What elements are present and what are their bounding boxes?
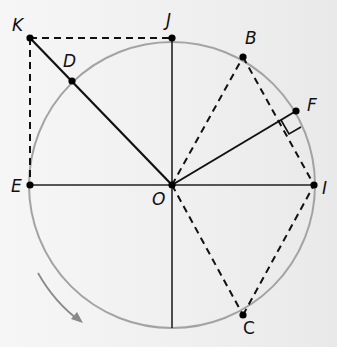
label-K: K	[12, 15, 25, 35]
point-B	[239, 53, 246, 60]
point-D	[68, 77, 75, 84]
point-J	[168, 34, 175, 41]
label-B: B	[245, 28, 257, 48]
segment-OB	[172, 57, 243, 185]
label-O: O	[152, 189, 165, 209]
point-I	[310, 181, 317, 188]
label-D: D	[63, 51, 76, 71]
segment-BI	[243, 57, 314, 185]
label-F: F	[307, 95, 317, 115]
diagram-svg: K D J B F E O I C	[0, 0, 337, 347]
unit-circle-diagram: K D J B F E O I C	[0, 0, 337, 347]
arrowhead-icon	[71, 312, 83, 323]
label-E: E	[11, 176, 22, 196]
rotation-arrow-icon	[38, 273, 80, 321]
point-K	[26, 34, 33, 41]
segment-OC	[172, 185, 243, 315]
label-J: J	[163, 10, 171, 30]
point-O	[168, 181, 175, 188]
segment-CI	[243, 185, 314, 315]
point-F	[292, 107, 299, 114]
segment-OF	[172, 111, 296, 185]
label-I: I	[322, 178, 327, 198]
point-E	[26, 181, 33, 188]
label-C: C	[243, 318, 255, 338]
